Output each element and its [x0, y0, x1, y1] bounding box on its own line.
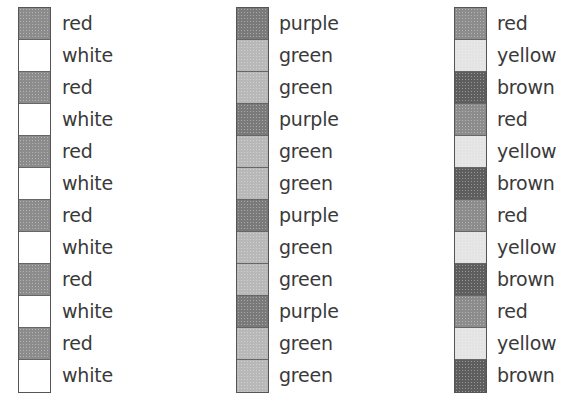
color-swatch-red [19, 200, 50, 232]
color-swatch-red [455, 296, 486, 328]
color-swatch-white [19, 168, 50, 200]
color-label: green [279, 231, 339, 263]
color-label: green [279, 359, 339, 391]
color-swatch-red [19, 328, 50, 360]
color-swatch-red [19, 8, 50, 40]
color-strip-3 [454, 7, 487, 393]
color-swatch-green [237, 232, 268, 264]
color-swatch-green [237, 360, 268, 392]
label-list-1: redwhiteredwhiteredwhiteredwhiteredwhite… [62, 7, 113, 391]
color-label: brown [497, 263, 556, 295]
color-label: white [62, 359, 113, 391]
color-label: red [62, 327, 113, 359]
color-label: white [62, 231, 113, 263]
color-swatch-green [237, 72, 268, 104]
color-label: white [62, 295, 113, 327]
color-label: brown [497, 71, 556, 103]
color-swatch-white [19, 232, 50, 264]
color-label: red [62, 135, 113, 167]
color-swatch-red [19, 264, 50, 296]
color-label: green [279, 167, 339, 199]
label-list-2: purplegreengreenpurplegreengreenpurplegr… [279, 7, 339, 391]
color-label: white [62, 39, 113, 71]
color-label: white [62, 167, 113, 199]
color-label: green [279, 71, 339, 103]
color-swatch-red [455, 200, 486, 232]
color-label: red [497, 103, 556, 135]
color-label: purple [279, 199, 339, 231]
color-swatch-brown [455, 72, 486, 104]
color-label: white [62, 103, 113, 135]
color-label: brown [497, 167, 556, 199]
color-swatch-green [237, 168, 268, 200]
color-label: brown [497, 359, 556, 391]
label-list-3: redyellowbrownredyellowbrownredyellowbro… [497, 7, 556, 391]
color-swatch-purple [237, 8, 268, 40]
color-label: red [62, 71, 113, 103]
color-swatch-white [19, 104, 50, 136]
color-label: red [62, 199, 113, 231]
color-swatch-white [19, 40, 50, 72]
color-swatch-yellow [455, 40, 486, 72]
color-swatch-yellow [455, 232, 486, 264]
color-label: green [279, 39, 339, 71]
color-swatch-green [237, 328, 268, 360]
color-swatch-white [19, 296, 50, 328]
color-label: yellow [497, 39, 556, 71]
color-label: green [279, 327, 339, 359]
color-label: yellow [497, 231, 556, 263]
color-label: yellow [497, 135, 556, 167]
color-swatch-green [237, 264, 268, 296]
color-swatch-red [455, 8, 486, 40]
color-swatch-green [237, 136, 268, 168]
color-label: purple [279, 7, 339, 39]
color-swatch-yellow [455, 136, 486, 168]
color-label: green [279, 135, 339, 167]
color-swatch-red [19, 72, 50, 104]
color-swatch-red [455, 104, 486, 136]
color-swatch-purple [237, 200, 268, 232]
color-swatch-brown [455, 264, 486, 296]
color-swatch-brown [455, 360, 486, 392]
color-swatch-green [237, 40, 268, 72]
color-label: red [62, 7, 113, 39]
color-swatch-purple [237, 296, 268, 328]
color-strip-2 [236, 7, 269, 393]
color-swatch-red [19, 136, 50, 168]
color-label: red [497, 295, 556, 327]
color-strip-1 [18, 7, 51, 393]
color-label: red [62, 263, 113, 295]
color-swatch-yellow [455, 328, 486, 360]
color-label: red [497, 7, 556, 39]
color-label: green [279, 263, 339, 295]
color-label: purple [279, 103, 339, 135]
color-label: purple [279, 295, 339, 327]
color-label: yellow [497, 327, 556, 359]
color-swatch-white [19, 360, 50, 392]
color-label: red [497, 199, 556, 231]
color-swatch-purple [237, 104, 268, 136]
color-swatch-brown [455, 168, 486, 200]
